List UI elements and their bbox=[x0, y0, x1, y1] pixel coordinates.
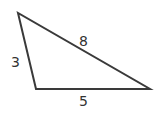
side-label-3: 3 bbox=[11, 54, 20, 70]
triangle-diagram: 3 8 5 bbox=[0, 0, 159, 113]
side-label-5: 5 bbox=[79, 93, 88, 109]
triangle-shape bbox=[18, 13, 150, 89]
side-label-8: 8 bbox=[79, 33, 88, 49]
